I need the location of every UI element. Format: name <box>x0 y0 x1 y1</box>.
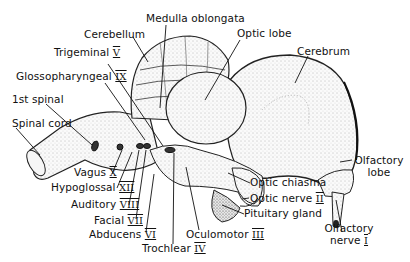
roman-numeral: V <box>113 47 120 58</box>
label-glossopharyngeal: Glossopharyngeal IX <box>16 70 127 83</box>
label-trigeminal: Trigeminal V <box>54 46 120 59</box>
label-cerebrum: Cerebrum <box>297 45 350 57</box>
roman-numeral: VIII <box>120 199 139 210</box>
label-text: Cerebellum <box>84 28 145 40</box>
label-text: Cerebrum <box>297 45 350 57</box>
roman-numeral: I <box>364 235 368 246</box>
label-text: Optic nerve <box>250 192 312 204</box>
label-cerebellum: Cerebellum <box>84 28 145 40</box>
label-facial: Facial VII <box>94 214 143 227</box>
label-text: Medulla oblongata <box>146 12 245 24</box>
label-optic-nerve: Optic nerve II <box>250 192 324 205</box>
label-text: Hypoglossal <box>51 181 116 193</box>
label-text: nerve <box>330 234 361 246</box>
roman-numeral: VI <box>145 229 156 240</box>
roman-numeral: X <box>110 167 117 178</box>
label-text: Oculomotor <box>186 228 249 240</box>
label-text-line2: lobe <box>350 166 408 178</box>
roman-numeral: III <box>252 229 264 240</box>
label-vagus: Vagus X <box>74 166 117 179</box>
label-hypoglossal: Hypoglossal XII <box>51 181 134 194</box>
label-abducens: Abducens VI <box>89 228 156 241</box>
label-text-line1: Olfactory <box>350 154 408 166</box>
label-text: Trochlear <box>142 242 191 254</box>
label-text: 1st spinal <box>12 93 64 105</box>
label-text-line1: Olfactory <box>318 222 380 234</box>
optic-lobe-shape <box>166 72 246 144</box>
label-text: Pituitary gland <box>244 207 322 219</box>
label-first-spinal: 1st spinal <box>12 93 64 105</box>
label-medulla-oblongata: Medulla oblongata <box>146 12 245 24</box>
label-text: Glossopharyngeal <box>16 70 112 82</box>
label-auditory: Auditory VIII <box>71 198 139 211</box>
label-text: Spinal cord <box>12 117 72 129</box>
label-text: Facial <box>94 214 124 226</box>
label-pituitary-gland: Pituitary gland <box>244 207 322 219</box>
label-text-line2: nerve I <box>318 234 380 247</box>
brain-diagram: Medulla oblongata Cerebellum Optic lobe … <box>0 0 410 262</box>
label-text: Abducens <box>89 228 141 240</box>
label-spinal-cord: Spinal cord <box>12 117 72 129</box>
label-oculomotor: Oculomotor III <box>186 228 264 241</box>
label-text: Vagus <box>74 166 106 178</box>
label-text: Trigeminal <box>54 46 109 58</box>
label-text: Optic lobe <box>237 27 292 39</box>
label-olfactory-lobe: Olfactorylobe <box>350 154 408 178</box>
label-trochlear: Trochlear IV <box>142 242 206 255</box>
label-olfactory-nerve: Olfactorynerve I <box>318 222 380 247</box>
label-text: Optic chiasma <box>250 176 326 188</box>
roman-numeral: IX <box>115 71 126 82</box>
roman-numeral: II <box>316 193 324 204</box>
label-optic-chiasma: Optic chiasma <box>250 176 326 188</box>
roman-numeral: IV <box>194 243 205 254</box>
label-text: Auditory <box>71 198 116 210</box>
label-optic-lobe: Optic lobe <box>237 27 292 39</box>
roman-numeral: VII <box>128 215 143 226</box>
roman-numeral: XII <box>119 182 134 193</box>
